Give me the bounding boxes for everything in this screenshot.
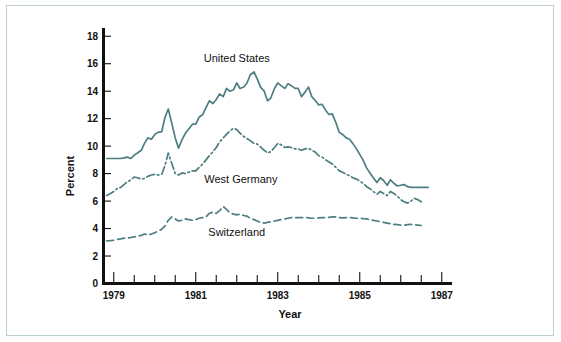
y-tick-label: 2 [92,251,98,262]
y-tick-label: 14 [87,86,99,97]
y-axis-title: Percent [64,155,76,196]
y-tick-label: 18 [87,31,99,42]
x-tick-label: 1985 [349,290,372,301]
y-tick-label: 16 [87,58,99,69]
figure-container: 024681012141618 19791981198319851987 Uni… [0,0,561,342]
y-tick-label: 10 [87,141,99,152]
x-axis-ticks [114,272,442,282]
data-series-group [107,72,428,241]
series-line-west-germany [107,128,421,203]
x-axis-tick-labels: 19791981198319851987 [103,290,454,301]
line-chart: 024681012141618 19791981198319851987 Uni… [0,0,561,342]
series-annotation-group: United StatesWest GermanySwitzerland [204,52,278,238]
y-tick-label: 8 [92,168,98,179]
y-tick-label: 6 [92,196,98,207]
x-axis-title: Year [278,308,302,320]
series-label-west-germany: West Germany [204,173,278,185]
y-tick-label: 12 [87,113,99,124]
y-tick-label: 4 [92,223,98,234]
x-tick-label: 1987 [431,290,454,301]
y-tick-label: 0 [92,278,98,289]
series-label-united-states: United States [204,52,271,64]
x-tick-label: 1981 [185,290,208,301]
x-tick-label: 1979 [103,290,126,301]
series-label-switzerland: Switzerland [208,226,265,238]
y-axis-tick-labels: 024681012141618 [87,31,99,289]
x-tick-label: 1983 [267,290,290,301]
y-axis-ticks [104,36,111,283]
series-line-united-states [107,72,428,187]
